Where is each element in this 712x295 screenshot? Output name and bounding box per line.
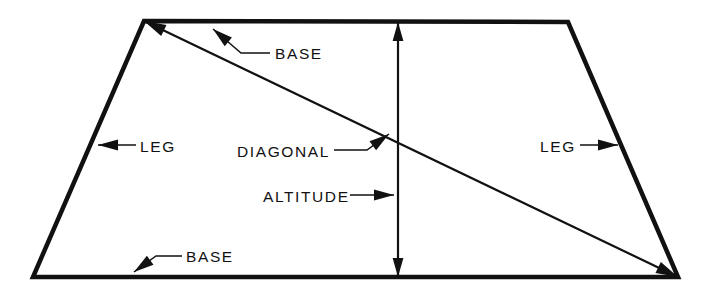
leader-arrowhead-diagonal [370,134,389,150]
trapezoid-outline [33,21,678,277]
altitude-line [393,22,404,277]
leader-arrowhead-altitude [374,189,394,200]
trapezoid-figure: BASE BASE LEG LEG DIAGONAL ALTITUDE [0,0,712,295]
leader-arrowhead-base-bottom [134,256,153,272]
label-leg-left: LEG [140,138,176,155]
altitude-arrowhead-top [393,22,404,41]
label-leg-right: LEG [540,138,576,155]
label-altitude: ALTITUDE [263,188,350,205]
diagonal-line [144,21,678,277]
leader-arrowhead-leg-left [98,139,118,150]
label-diagonal: DIAGONAL [237,143,330,160]
label-base-bottom: BASE [186,248,234,265]
diagram-canvas: BASE BASE LEG LEG DIAGONAL ALTITUDE [0,0,712,295]
leader-arrowhead-leg-right [598,139,618,150]
label-base-top: BASE [275,45,323,62]
altitude-arrowhead-bottom [393,258,404,277]
